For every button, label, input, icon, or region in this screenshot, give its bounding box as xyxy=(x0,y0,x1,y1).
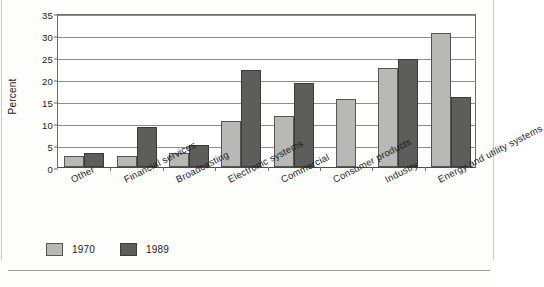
legend-label: 1989 xyxy=(146,244,169,255)
page-edge-right xyxy=(493,0,494,260)
x-tick-separator xyxy=(110,167,111,171)
light-gray-swatch xyxy=(46,243,63,256)
y-tick-label: 35 xyxy=(42,10,53,21)
y-tick-label: 20 xyxy=(42,76,53,87)
x-tick-separator xyxy=(320,167,321,171)
bar-1989-commercial xyxy=(294,83,314,167)
legend-item: 1989 xyxy=(120,243,169,256)
dark-gray-swatch xyxy=(120,243,137,256)
x-tick-separator xyxy=(425,167,426,171)
bar-group xyxy=(320,15,372,167)
bar-1970-financial-services xyxy=(117,156,137,167)
bar-1970-consumer-products xyxy=(336,99,356,167)
y-tick-label: 5 xyxy=(48,142,53,153)
y-tick-label: 10 xyxy=(42,120,53,131)
x-tick-separator xyxy=(163,167,164,171)
page-edge-left xyxy=(1,0,2,260)
bar-group xyxy=(425,15,477,167)
plot-area: 05101520253035 xyxy=(57,14,476,168)
bar-1989-electronic-systems xyxy=(241,70,261,167)
horizontal-rule xyxy=(8,270,490,271)
bar-1989-energy-and-utility-systems xyxy=(451,97,471,167)
y-tick-label: 30 xyxy=(42,32,53,43)
legend-label: 1970 xyxy=(72,244,95,255)
y-tick-label: 25 xyxy=(42,54,53,65)
x-tick-separator xyxy=(372,167,373,171)
bar-1970-other xyxy=(64,156,84,167)
bar-group xyxy=(215,15,267,167)
bar-group xyxy=(58,15,110,167)
x-tick-separator xyxy=(215,167,216,171)
y-tick-label: 15 xyxy=(42,98,53,109)
x-tick-separator xyxy=(268,167,269,171)
bar-group xyxy=(110,15,162,167)
y-tick-mark xyxy=(54,169,58,170)
y-tick-label: 0 xyxy=(48,164,53,175)
y-axis-title: Percent xyxy=(7,79,18,115)
legend-item: 1970 xyxy=(46,243,95,256)
bar-1970-energy-and-utility-systems xyxy=(431,33,451,167)
chart-legend: 19701989 xyxy=(46,243,169,256)
